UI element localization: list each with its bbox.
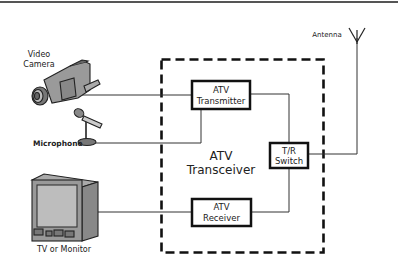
antenna-label: Antenna	[312, 31, 341, 39]
transceiver-label-line1: ATV	[210, 149, 234, 163]
camera-label-line2: Camera	[23, 60, 54, 69]
trswitch-label-line2: Switch	[275, 156, 303, 166]
microphone-label: Microphone	[33, 139, 83, 148]
wire-trswitch-antenna	[308, 38, 357, 154]
transmitter-label-line1: ATV	[213, 85, 229, 95]
atv-block-diagram: ATV Transceiver ATV Transmitter T/R Swit…	[0, 0, 398, 275]
atv-transmitter-block: ATV Transmitter	[192, 81, 250, 109]
antenna-icon	[349, 28, 365, 44]
tv-label: TV or Monitor	[36, 245, 92, 254]
receiver-label-line1: ATV	[213, 202, 229, 212]
tr-switch-block: T/R Switch	[270, 143, 308, 168]
wire-trswitch-receiver	[251, 168, 289, 212]
atv-receiver-block: ATV Receiver	[192, 199, 251, 226]
wire-mic-transmitter	[96, 109, 201, 143]
receiver-label-line2: Receiver	[203, 213, 240, 223]
trswitch-label-line1: T/R	[281, 146, 296, 156]
transceiver-label-line2: Transceiver	[186, 163, 256, 177]
wire-transmitter-trswitch	[250, 94, 289, 143]
transmitter-label-line2: Transmitter	[196, 96, 246, 106]
connection-lines	[82, 38, 357, 212]
camera-label-line1: Video	[28, 50, 51, 59]
tv-monitor-icon	[32, 174, 98, 241]
